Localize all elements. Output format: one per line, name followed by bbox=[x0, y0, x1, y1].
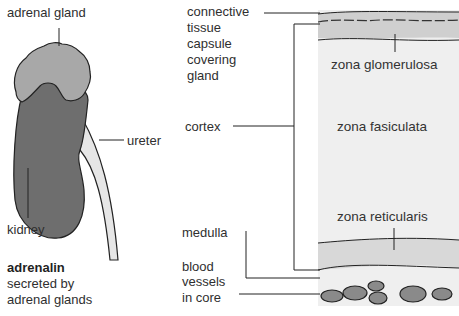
blood-vessels-label-1: blood bbox=[182, 259, 214, 275]
kidney-shape bbox=[14, 82, 88, 238]
medulla-label: medulla bbox=[182, 225, 228, 241]
cross-section bbox=[233, 10, 459, 306]
ureter-label: ureter bbox=[127, 133, 161, 149]
ureter-shape bbox=[80, 118, 118, 260]
capsule-label-5: gland bbox=[187, 68, 219, 84]
cortex-label: cortex bbox=[185, 119, 220, 135]
zona-glomerulosa-label: zona glomerulosa bbox=[331, 57, 438, 72]
kidney-label: kidney bbox=[7, 222, 45, 238]
caption-line-1: secreted by bbox=[7, 276, 74, 292]
capsule-label-3: capsule bbox=[187, 36, 232, 52]
capsule-label-2: tissue bbox=[187, 20, 221, 36]
zona-reticularis-label: zona reticularis bbox=[337, 209, 428, 224]
zona-fasiculata-label: zona fasiculata bbox=[337, 119, 427, 134]
blood-vessels-label-2: vessels bbox=[182, 274, 225, 290]
caption-line-2: adrenal glands bbox=[7, 292, 92, 308]
capsule-label-1: connective bbox=[187, 4, 249, 20]
blood-vessels-label-3: in core bbox=[182, 290, 221, 306]
capsule-label-4: covering bbox=[187, 52, 236, 68]
caption-title: adrenalin bbox=[7, 260, 65, 276]
adrenal-gland-label: adrenal gland bbox=[7, 5, 86, 21]
